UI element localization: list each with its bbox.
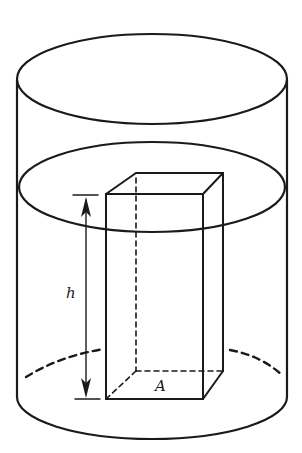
- cylinder-bottom-back-arc-left: [26, 349, 104, 377]
- height-label: h: [66, 284, 76, 302]
- prism-front-face: [106, 194, 203, 399]
- cylinder-bottom-back-arc-right: [230, 350, 283, 376]
- prism-hidden-bottom-left-edge: [106, 371, 136, 399]
- prism-top-left-edge: [106, 173, 136, 194]
- cylinder-top-ellipse: [17, 34, 287, 124]
- prism-bottom-right-edge: [203, 371, 223, 399]
- cylinder-bottom-front-arc: [17, 397, 287, 439]
- base-area-label: A: [153, 377, 166, 395]
- water-surface-ellipse: [19, 142, 285, 232]
- cylinder-prism-diagram: h A: [0, 0, 302, 453]
- prism-top-right-edge: [203, 173, 223, 194]
